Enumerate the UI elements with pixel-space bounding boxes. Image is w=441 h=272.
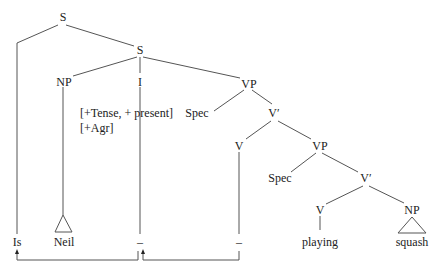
- edge-vpupper-spec: [214, 90, 244, 111]
- edge-vpupper-vbar: [252, 90, 272, 104]
- edge-vbarupper-vplower: [278, 121, 311, 139]
- node-np-subject: NP: [56, 75, 72, 89]
- movement-v-to-i: [143, 251, 239, 260]
- leaf-i-trace: –: [136, 235, 144, 249]
- node-v-upper: V: [235, 139, 244, 153]
- i-features-line2: [+Agr]: [80, 121, 113, 135]
- leaf-v-trace: –: [235, 235, 243, 249]
- edge-vbarupper-v: [246, 121, 271, 139]
- i-features-line1: [+Tense, + present]: [80, 106, 173, 120]
- edge-sinner-np: [73, 57, 137, 76]
- node-spec-upper: Spec: [185, 106, 208, 120]
- node-np-object: NP: [404, 203, 420, 217]
- edge-vbarlower-v: [326, 186, 363, 204]
- node-vp-upper: VP: [241, 77, 257, 91]
- node-s-inner: S: [137, 43, 144, 57]
- node-v-lower: V: [316, 203, 325, 217]
- node-vbar-lower: V′: [360, 171, 372, 185]
- node-spec-lower: Spec: [268, 171, 291, 185]
- edge-vplower-vbar: [322, 153, 358, 172]
- tree-node-labels: S S NP I [+Tense, + present] [+Agr] VP S…: [56, 10, 420, 217]
- np-triangle-neil: [55, 215, 72, 232]
- movement-i-to-s: [17, 251, 138, 260]
- tree-edges: [17, 25, 426, 234]
- edge-sroot-is: [17, 25, 58, 234]
- edge-sinner-vp: [143, 57, 240, 78]
- node-i-head: I: [138, 75, 142, 89]
- tree-leaves: Is Neil – – playing squash: [13, 235, 429, 249]
- leaf-moved-aux: Is: [13, 235, 22, 249]
- np-triangle-squash: [398, 217, 426, 233]
- leaf-object: squash: [396, 235, 429, 249]
- node-vbar-upper: V′: [268, 106, 280, 120]
- leaf-verb: playing: [302, 235, 338, 249]
- edge-vbarlower-np: [369, 186, 404, 203]
- node-vp-lower: VP: [312, 139, 328, 153]
- arrowhead-up-icon: [141, 249, 145, 254]
- movement-arrows: [15, 249, 239, 260]
- node-s-root: S: [60, 10, 67, 24]
- edge-sroot-sinner: [66, 25, 134, 46]
- edge-vplower-spec: [291, 153, 316, 172]
- leaf-subject: Neil: [54, 235, 75, 249]
- arrowhead-up-icon: [15, 249, 19, 254]
- syntax-tree: S S NP I [+Tense, + present] [+Agr] VP S…: [0, 0, 441, 272]
